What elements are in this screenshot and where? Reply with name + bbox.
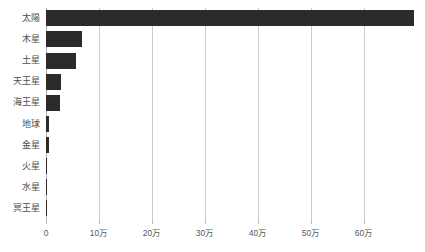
category-label-text: 地球 — [0, 114, 40, 135]
x-tick-label: 60万 — [355, 228, 373, 239]
x-tick-mark — [152, 219, 153, 224]
category-label-text: 海王星 — [0, 92, 40, 113]
category-label: 火星 — [0, 156, 40, 177]
bar-row — [46, 156, 364, 177]
category-label: 太陽 — [0, 8, 40, 29]
category-label: 木星 — [0, 29, 40, 50]
bar-chart: 太陽木星土星天王星海王星地球金星火星水星冥王星 010万20万30万40万50万… — [0, 0, 425, 252]
category-label-text: 水星 — [0, 177, 40, 198]
category-label: 冥王星 — [0, 198, 40, 219]
bar — [46, 95, 60, 111]
x-tick-mark — [364, 219, 365, 224]
bar-row — [46, 50, 364, 71]
bar-row — [46, 135, 364, 156]
bar — [46, 116, 49, 132]
x-tick-mark — [205, 219, 206, 224]
x-tick-label: 0 — [44, 228, 49, 239]
x-tick-mark — [311, 219, 312, 224]
x-tick-label: 10万 — [90, 228, 108, 239]
bar-row — [46, 71, 364, 92]
x-tick-label: 20万 — [143, 228, 161, 239]
category-label-text: 太陽 — [0, 8, 40, 29]
bar — [46, 137, 49, 153]
bar — [46, 179, 47, 195]
category-label-text: 天王星 — [0, 71, 40, 92]
category-label: 土星 — [0, 50, 40, 71]
x-tick-label: 30万 — [196, 228, 214, 239]
category-label: 海王星 — [0, 92, 40, 113]
x-tick-mark — [99, 219, 100, 224]
category-label-text: 火星 — [0, 156, 40, 177]
x-tick-mark — [46, 219, 47, 224]
bar-row — [46, 114, 364, 135]
bar-row — [46, 29, 364, 50]
category-label-text: 冥王星 — [0, 198, 40, 219]
bar — [46, 31, 82, 47]
x-tick-mark — [258, 219, 259, 224]
category-label: 金星 — [0, 135, 40, 156]
category-label-text: 金星 — [0, 135, 40, 156]
plot-area — [46, 8, 364, 219]
gridline-60万 — [364, 8, 365, 219]
bar — [46, 53, 76, 69]
category-label: 水星 — [0, 177, 40, 198]
bar — [46, 10, 414, 26]
bar-row — [46, 198, 364, 219]
x-tick-label: 50万 — [302, 228, 320, 239]
bar — [46, 74, 61, 90]
bar-row — [46, 177, 364, 198]
bar — [46, 200, 47, 216]
category-label: 地球 — [0, 114, 40, 135]
category-label: 天王星 — [0, 71, 40, 92]
category-label-text: 木星 — [0, 29, 40, 50]
x-tick-label: 40万 — [249, 228, 267, 239]
bar-row — [46, 8, 364, 29]
category-label-text: 土星 — [0, 50, 40, 71]
bar — [46, 158, 47, 174]
bar-row — [46, 92, 364, 113]
